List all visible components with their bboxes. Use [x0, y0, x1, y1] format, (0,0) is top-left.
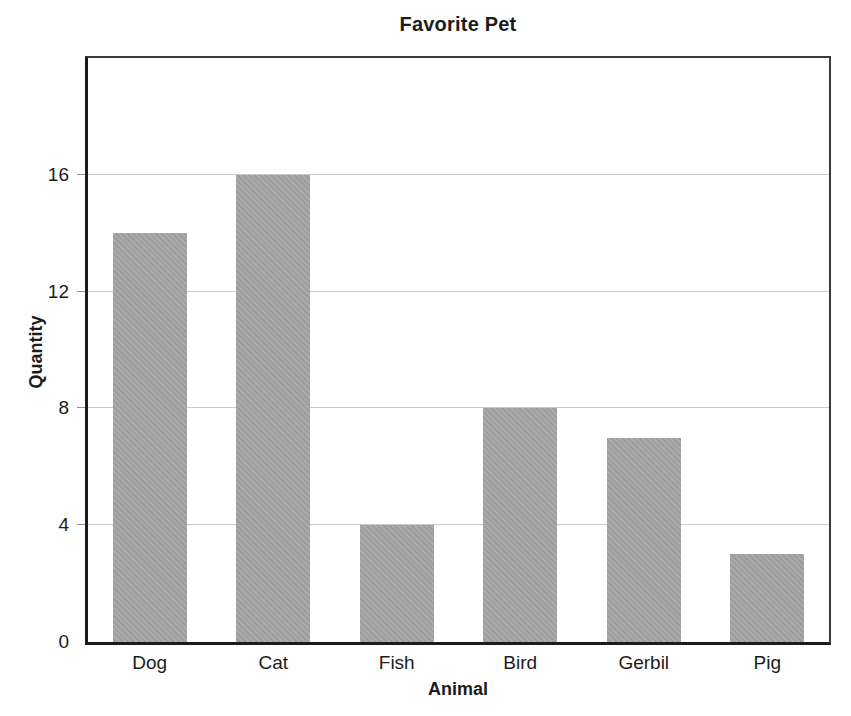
y-tick-label-16: 16	[25, 164, 69, 186]
y-tick-label-12: 12	[25, 281, 69, 303]
bar-chart-figure: Favorite Pet Quantity Animal 0481216DogC…	[0, 0, 851, 716]
gridline-y4	[88, 524, 829, 525]
bar-cat	[236, 175, 310, 642]
gridline-y16	[88, 174, 829, 175]
chart-title: Favorite Pet	[85, 13, 831, 36]
y-tick-mark-8	[77, 407, 85, 408]
x-tick-label-bird: Bird	[503, 652, 537, 674]
y-axis-label: Quantity	[26, 315, 47, 388]
bar-bird	[483, 408, 557, 642]
x-tick-label-cat: Cat	[258, 652, 288, 674]
x-tick-label-gerbil: Gerbil	[618, 652, 669, 674]
y-tick-label-0: 0	[25, 631, 69, 653]
bar-fish	[360, 525, 434, 642]
gridline-y8	[88, 407, 829, 408]
y-tick-label-8: 8	[25, 397, 69, 419]
y-tick-mark-16	[77, 174, 85, 175]
x-tick-label-pig: Pig	[754, 652, 781, 674]
x-axis-label: Animal	[428, 679, 488, 700]
gridline-y12	[88, 291, 829, 292]
y-tick-label-4: 4	[25, 514, 69, 536]
x-tick-label-fish: Fish	[379, 652, 415, 674]
bar-dog	[113, 233, 187, 642]
plot-area	[85, 56, 831, 645]
y-tick-mark-12	[77, 291, 85, 292]
y-tick-mark-4	[77, 524, 85, 525]
bar-gerbil	[607, 438, 681, 642]
bar-pig	[730, 554, 804, 642]
x-tick-label-dog: Dog	[132, 652, 167, 674]
